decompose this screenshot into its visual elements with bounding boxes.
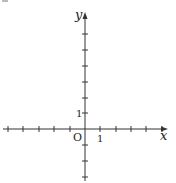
y-axis (82, 12, 88, 181)
y-unit-label: 1 (76, 108, 82, 119)
y-axis-arrow-icon (83, 12, 88, 19)
coordinate-plane: y x O 1 1 (0, 0, 176, 183)
x-axis-label: x (160, 128, 168, 143)
origin-label: O (73, 131, 82, 144)
y-axis-label: y (74, 7, 83, 22)
x-unit-label: 1 (97, 133, 103, 144)
cropped-text-fragment (2, 0, 8, 2)
